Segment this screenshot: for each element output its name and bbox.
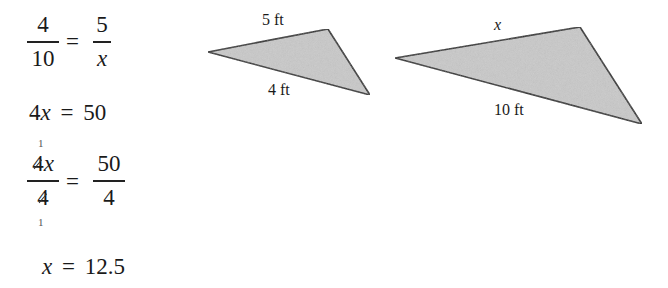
small-triangle-bottom-label: 4 ft (268, 82, 290, 98)
large-triangle-top-label: x (494, 17, 501, 33)
small-triangle-top-label: 5 ft (262, 12, 284, 28)
large-triangle-bottom-label: 10 ft (494, 102, 524, 118)
similar-triangles-figure (0, 0, 668, 288)
